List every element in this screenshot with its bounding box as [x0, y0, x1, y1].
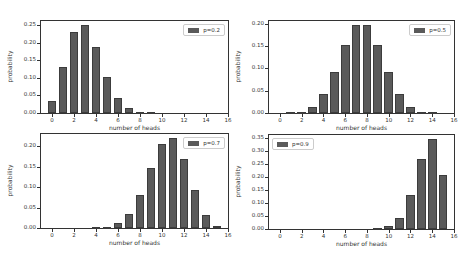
y-tick-mark: [265, 91, 268, 92]
bar: [373, 45, 382, 113]
y-tick-mark: [37, 95, 40, 96]
y-axis-label: probability: [6, 37, 13, 97]
x-tick-mark: [206, 229, 207, 232]
x-tick-mark: [206, 114, 207, 117]
x-tick-label: 14: [424, 117, 440, 123]
legend-label: p=0.5: [429, 27, 446, 33]
y-tick-mark: [37, 60, 40, 61]
x-tick-mark: [118, 229, 119, 232]
bar: [59, 67, 68, 113]
y-tick-mark: [265, 164, 268, 165]
y-tick-mark: [265, 68, 268, 69]
x-tick-label: 4: [88, 232, 104, 238]
legend-swatch: [188, 28, 199, 33]
x-tick-label: 2: [66, 232, 82, 238]
bar: [114, 223, 123, 228]
y-tick-mark: [265, 216, 268, 217]
bar: [92, 47, 101, 113]
y-axis-label: probability: [234, 37, 241, 97]
y-tick-mark: [37, 146, 40, 147]
bar: [406, 195, 415, 229]
bar: [286, 112, 295, 114]
legend-label: p=0.7: [203, 140, 220, 146]
legend: p=0.7: [183, 137, 225, 149]
y-tick-mark: [265, 24, 268, 25]
x-tick-mark: [96, 229, 97, 232]
y-tick-label: 0.05: [14, 204, 36, 210]
x-tick-mark: [140, 114, 141, 117]
y-tick-mark: [265, 190, 268, 191]
x-tick-mark: [345, 114, 346, 117]
x-tick-label: 8: [132, 232, 148, 238]
chart-axes-2: p=0.7: [40, 133, 229, 229]
x-tick-mark: [162, 114, 163, 117]
y-tick-label: 0.25: [14, 21, 36, 27]
y-tick-label: 0.10: [14, 183, 36, 189]
bar: [308, 107, 317, 113]
x-tick-mark: [228, 114, 229, 117]
chart-axes-0: p=0.2: [40, 20, 229, 114]
y-tick-mark: [37, 167, 40, 168]
x-tick-label: 4: [315, 117, 331, 123]
y-tick-label: 0.10: [14, 74, 36, 80]
x-tick-mark: [280, 114, 281, 117]
y-tick-mark: [37, 78, 40, 79]
legend-swatch: [277, 142, 288, 147]
x-tick-label: 2: [294, 233, 310, 239]
y-tick-mark: [37, 113, 40, 114]
y-tick-label: 0.15: [14, 56, 36, 62]
y-tick-label: 0.30: [242, 147, 264, 153]
legend: p=0.2: [183, 24, 225, 36]
x-tick-label: 6: [337, 117, 353, 123]
x-tick-mark: [410, 114, 411, 117]
legend: p=0.9: [272, 138, 314, 150]
x-tick-label: 10: [381, 233, 397, 239]
x-tick-mark: [302, 114, 303, 117]
x-tick-label: 8: [359, 233, 375, 239]
x-tick-mark: [389, 114, 390, 117]
bar: [180, 159, 189, 228]
x-tick-mark: [454, 230, 455, 233]
x-tick-label: 10: [381, 117, 397, 123]
x-tick-mark: [96, 114, 97, 117]
x-tick-mark: [118, 114, 119, 117]
x-tick-mark: [323, 230, 324, 233]
y-tick-mark: [265, 177, 268, 178]
y-tick-label: 0.00: [242, 225, 264, 231]
bar: [202, 215, 211, 228]
x-tick-mark: [74, 114, 75, 117]
x-tick-label: 10: [154, 232, 170, 238]
x-tick-label: 14: [198, 117, 214, 123]
bar: [81, 25, 90, 113]
y-tick-mark: [265, 203, 268, 204]
legend: p=0.5: [409, 24, 451, 36]
x-tick-mark: [367, 114, 368, 117]
x-tick-label: 4: [88, 117, 104, 123]
bar: [330, 72, 339, 113]
y-tick-mark: [265, 229, 268, 230]
x-tick-label: 16: [446, 233, 462, 239]
x-tick-mark: [280, 230, 281, 233]
y-tick-mark: [265, 46, 268, 47]
x-tick-mark: [52, 114, 53, 117]
bar: [169, 138, 178, 228]
x-tick-mark: [345, 230, 346, 233]
y-tick-mark: [265, 113, 268, 114]
x-axis-label: number of heads: [40, 124, 229, 131]
y-tick-label: 0.10: [242, 199, 264, 205]
x-tick-label: 2: [294, 117, 310, 123]
x-axis-label: number of heads: [268, 240, 455, 247]
y-tick-label: 0.20: [14, 142, 36, 148]
bar: [158, 144, 167, 228]
x-tick-label: 14: [424, 233, 440, 239]
y-tick-mark: [37, 208, 40, 209]
x-tick-mark: [389, 230, 390, 233]
bar: [341, 45, 350, 113]
x-tick-label: 14: [198, 232, 214, 238]
x-tick-label: 6: [110, 232, 126, 238]
y-tick-label: 0.15: [242, 42, 264, 48]
y-tick-label: 0.15: [242, 186, 264, 192]
y-tick-label: 0.20: [14, 39, 36, 45]
x-tick-label: 4: [315, 233, 331, 239]
y-axis-label: probability: [6, 151, 13, 211]
